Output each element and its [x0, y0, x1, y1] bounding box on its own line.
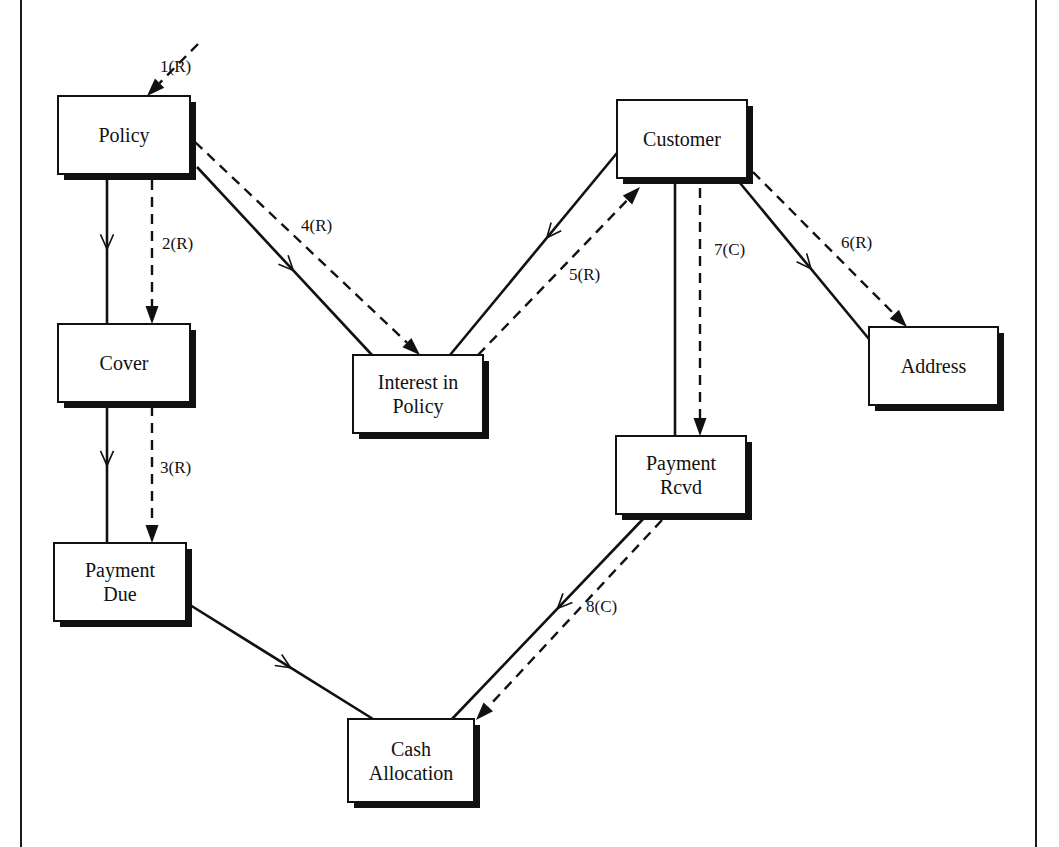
entity-label: Cash	[391, 738, 431, 760]
entity-box-cash-allocation[interactable]: CashAllocation	[348, 719, 480, 808]
relationship-line-customer-to-interest-in-policy	[450, 153, 617, 355]
access-path-line-5	[478, 200, 628, 355]
access-path-label: 7(C)	[714, 240, 745, 259]
access-path-label: 2(R)	[162, 234, 193, 253]
box-border	[54, 543, 186, 621]
entity-label: Rcvd	[660, 476, 702, 498]
box-border	[348, 719, 474, 802]
entity-label: Interest in	[378, 371, 459, 393]
entity-label: Payment	[85, 559, 155, 582]
entity-label: Policy	[98, 124, 149, 147]
entity-label: Customer	[643, 128, 721, 150]
relationship-line-payment-due-to-cash-allocation	[190, 605, 373, 719]
arrowhead-icon	[476, 702, 493, 720]
entity-box-payment-due[interactable]: PaymentDue	[54, 543, 192, 627]
entity-box-cover[interactable]: Cover	[58, 324, 196, 408]
entity-label: Cover	[100, 352, 149, 374]
entity-box-policy[interactable]: Policy	[58, 96, 196, 180]
access-path-label: 8(C)	[586, 597, 617, 616]
relationship-line-payment-rcvd-to-cash-allocation	[452, 518, 644, 719]
entity-label: Payment	[646, 452, 716, 475]
access-path-label: 4(R)	[301, 216, 332, 235]
relationship-line-customer-to-address	[740, 183, 869, 339]
entity-box-address[interactable]: Address	[869, 327, 1004, 411]
entity-label: Due	[103, 583, 136, 605]
box-border	[616, 436, 746, 514]
entity-label: Policy	[392, 395, 443, 418]
access-path-label: 6(R)	[841, 233, 872, 252]
arrowhead-icon	[694, 418, 707, 436]
arrowhead-icon	[146, 306, 159, 324]
arrowhead-icon	[146, 525, 159, 543]
relationship-line-policy-to-interest-in-policy	[197, 167, 372, 355]
entity-label: Address	[901, 355, 967, 377]
entity-label: Allocation	[369, 762, 453, 784]
access-path-label: 3(R)	[160, 458, 191, 477]
access-path-label: 5(R)	[569, 265, 600, 284]
entity-box-payment-rcvd[interactable]: PaymentRcvd	[616, 436, 752, 520]
access-path-line-4	[195, 142, 407, 343]
entity-box-interest-in-policy[interactable]: Interest inPolicy	[353, 355, 489, 439]
entity-box-customer[interactable]: Customer	[617, 100, 753, 184]
access-path-line-6	[753, 172, 894, 314]
box-border	[353, 355, 483, 433]
access-path-line-8	[488, 520, 662, 707]
access-path-label: 1(R)	[160, 57, 191, 76]
entity-access-diagram: 1(R)2(R)3(R)4(R)5(R)6(R)7(C)8(C) PolicyC…	[0, 0, 1059, 847]
arrowhead-icon	[890, 310, 907, 327]
